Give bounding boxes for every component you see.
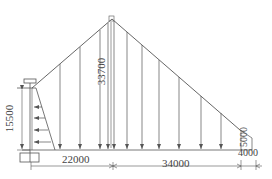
load-distribution-diagram: 15500 33700 5000 22000 34000 4000 (0, 0, 272, 179)
horizontal-load-slope (36, 88, 55, 150)
right-height-label: 5000 (239, 127, 249, 147)
left-height-label: 15500 (4, 105, 15, 133)
left-span-label: 22000 (62, 154, 90, 165)
right-span-label: 34000 (162, 158, 190, 169)
vertical-load-arrows (60, 21, 221, 149)
end-span-label: 4000 (238, 148, 258, 158)
horizontal-load-arrows (34, 107, 51, 142)
peak-height-label: 33700 (96, 58, 107, 86)
left-base-block (20, 153, 39, 162)
diagram-canvas (0, 0, 272, 179)
